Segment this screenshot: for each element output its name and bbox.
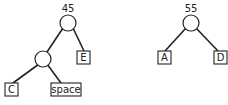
tree1-root-node: [60, 15, 76, 31]
leaf-d-label: D: [217, 52, 225, 63]
tree1-root-weight: 45: [62, 3, 75, 14]
leaf-a-label: A: [161, 52, 168, 63]
leaf-c-label: C: [8, 84, 15, 95]
tree2-root-node: [183, 15, 199, 31]
huffman-trees-diagram: 45 E C space 55 A D: [0, 0, 228, 105]
tree2-root-weight: 55: [185, 3, 198, 14]
leaf-space-label: space: [51, 84, 80, 95]
leaf-e-label: E: [80, 52, 86, 63]
tree1-internal-node: [35, 51, 51, 67]
